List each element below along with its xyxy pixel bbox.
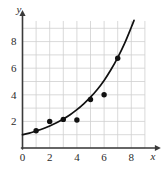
data-point-marker bbox=[115, 56, 120, 61]
y-tick-labels: 2468 bbox=[11, 35, 17, 127]
data-point-marker bbox=[47, 119, 52, 124]
x-tick-label: 8 bbox=[129, 151, 135, 163]
x-tick-labels: 02468 bbox=[20, 151, 135, 163]
x-tick-label: 2 bbox=[47, 151, 53, 163]
data-point-marker bbox=[101, 92, 106, 97]
x-axis-arrowhead bbox=[155, 145, 161, 151]
x-tick-label: 4 bbox=[74, 151, 80, 163]
chart-canvas: 02468 2468 x y bbox=[0, 0, 164, 170]
data-point-marker bbox=[61, 117, 66, 122]
y-tick-label: 2 bbox=[11, 115, 17, 127]
x-axis-label: x bbox=[150, 150, 156, 162]
data-point-marker bbox=[88, 97, 93, 102]
y-axis-label: y bbox=[16, 3, 22, 15]
fitted-curve-path bbox=[23, 20, 135, 134]
scatter-plot-figure: 02468 2468 x y bbox=[0, 0, 164, 170]
y-tick-label: 8 bbox=[11, 35, 17, 47]
x-tick-label: 6 bbox=[101, 151, 107, 163]
y-tick-label: 6 bbox=[11, 62, 17, 74]
x-tick-label: 0 bbox=[20, 151, 26, 163]
data-point-marker bbox=[74, 117, 79, 122]
data-point-marker bbox=[33, 128, 38, 133]
y-tick-label: 4 bbox=[11, 89, 17, 101]
